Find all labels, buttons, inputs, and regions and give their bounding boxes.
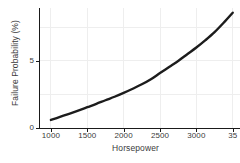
x-tick-label: 1000 <box>31 131 71 140</box>
chart-figure: 1000150020002500300035 05 Horsepower Fai… <box>0 0 240 163</box>
y-tick-mark <box>36 61 39 62</box>
series-line <box>51 13 233 120</box>
x-tick-label: 2000 <box>104 131 144 140</box>
gridlines <box>40 8 240 128</box>
y-axis-title: Failure Probability (%) <box>10 3 20 123</box>
y-tick-mark <box>36 128 39 129</box>
y-tick-label: 5 <box>23 57 34 65</box>
x-axis-spine <box>39 128 240 129</box>
x-axis-title: Horsepower <box>43 143 228 153</box>
x-tick-label: 35 <box>213 131 240 140</box>
x-tick-label: 3000 <box>176 131 216 140</box>
data-series <box>51 13 233 120</box>
x-tick-label: 1500 <box>67 131 107 140</box>
plot-area <box>40 8 240 128</box>
x-tick-label: 2500 <box>140 131 180 140</box>
y-tick-label: 0 <box>23 124 34 132</box>
y-axis-spine <box>39 8 40 129</box>
chart-canvas <box>40 8 240 128</box>
